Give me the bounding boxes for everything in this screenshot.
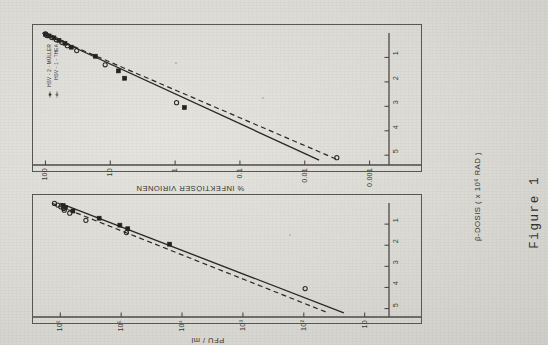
chart-panel-lower: [32, 194, 422, 324]
legend-key-filled-square-solid: [47, 91, 53, 98]
legend-entry-hsv2: HSV - 2 - MÜLLER: [46, 44, 53, 90]
y-tick-label: 0.001: [365, 168, 374, 187]
x-tick-label: 5: [391, 303, 400, 307]
figure-plate: 1001010.10.010.001 % INFEKTIÖSER VIRIONE…: [16, 14, 436, 334]
y-tick-label: 10³: [238, 320, 247, 331]
x-tick-label: 2: [391, 239, 400, 243]
x-tick-label: 1: [391, 51, 400, 55]
x-tick-label: 5: [391, 149, 400, 153]
y-tick-label: 100: [40, 168, 49, 181]
y-tick-label: 1: [170, 168, 179, 172]
y-tick-label: 0.01: [300, 168, 309, 183]
legend-label-hsv2: HSV - 2 - MÜLLER: [46, 44, 53, 87]
x-tick-label: 1: [391, 218, 400, 222]
y-tick-label: 10⁵: [116, 320, 125, 332]
x-tick-label: 4: [391, 281, 400, 285]
legend-entry-hsv1: HSV - 1 - THEA: [53, 44, 60, 90]
legend: HSV - 2 - MÜLLER HSV - 1 - THEA: [46, 44, 62, 90]
figure-caption: Figure 1: [528, 176, 542, 249]
y-tick-label: 10⁴: [177, 320, 186, 332]
y-tick-label: 10²: [299, 320, 308, 331]
x-tick-label: 4: [391, 125, 400, 129]
y-tick-label: 10: [105, 168, 114, 176]
chart-panel-upper: [32, 24, 422, 172]
x-tick-label: 2: [391, 76, 400, 80]
legend-key-open-circle-dashed: [54, 91, 60, 98]
plot-area-lower: [33, 195, 421, 323]
y-tick-label: 0.1: [235, 168, 244, 179]
y-tick-label: 10⁶: [55, 320, 64, 332]
plot-svg-lower: [33, 195, 423, 325]
y-axis-title-lower: PFU / ml: [191, 336, 224, 345]
plot-svg-upper: [33, 25, 423, 173]
x-tick-label: 3: [391, 100, 400, 104]
plot-area-upper: [33, 25, 421, 171]
y-axis-title-upper: % INFEKTIÖSER VIRIONEN: [136, 184, 244, 193]
legend-label-hsv1: HSV - 1 - THEA: [53, 44, 60, 80]
x-axis-title-shared: β-DOSIS ( x 10⁶ RAD ): [473, 152, 482, 241]
y-tick-label: 10: [360, 320, 369, 328]
x-tick-label: 3: [391, 260, 400, 264]
